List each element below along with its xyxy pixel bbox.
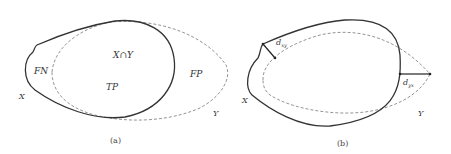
y-label: Y — [213, 109, 219, 118]
d-xy-start-dot — [262, 43, 265, 46]
x-label: X — [241, 96, 248, 105]
panel-b: dxy dyx X Y (b) — [241, 20, 431, 148]
intersection-label: X∩Y — [112, 50, 134, 60]
x-label: X — [18, 92, 25, 101]
caption-b: (b) — [337, 139, 348, 148]
fp-label: FP — [189, 69, 203, 79]
caption-a: (a) — [110, 136, 121, 145]
fn-label: FN — [33, 66, 49, 76]
y-label: Y — [418, 109, 424, 118]
panel-a: FN X∩Y TP FP X Y (a) — [18, 21, 228, 145]
d-yx-end-dot — [429, 73, 432, 76]
d-xy-segment — [263, 44, 275, 58]
d-xy-label: dxy — [276, 38, 287, 49]
diagram-canvas: FN X∩Y TP FP X Y (a) dxy dyx X Y (b) — [0, 0, 451, 154]
set-y-dashed-curve — [263, 32, 430, 113]
d-xy-end-dot — [274, 57, 277, 60]
tp-label: TP — [106, 82, 119, 92]
d-yx-start-dot — [399, 73, 402, 76]
d-yx-label: dyx — [403, 78, 414, 89]
